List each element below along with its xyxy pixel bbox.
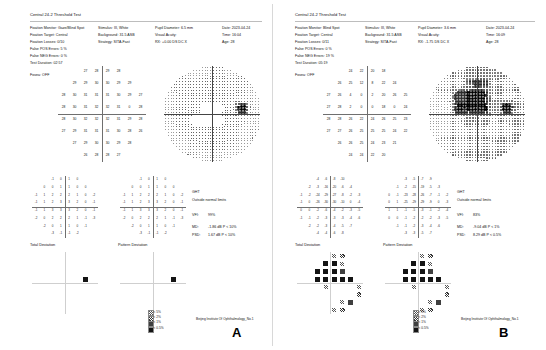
grayscale-cell <box>193 75 194 76</box>
grid-value: -5 <box>427 186 434 189</box>
grayscale-cell <box>227 78 228 79</box>
grayscale-cell <box>452 89 454 91</box>
grayscale-cell <box>188 81 189 82</box>
grayscale-cell <box>258 121 259 122</box>
grayscale-cell <box>236 81 237 82</box>
grayscale-cell <box>489 69 491 71</box>
grayscale-cell <box>500 115 502 117</box>
grayscale-cell <box>216 78 217 79</box>
grayscale-cell <box>236 146 237 147</box>
grayscale-cell <box>492 137 493 138</box>
grayscale-cell <box>483 126 484 127</box>
grayscale-cell <box>478 143 479 144</box>
grayscale-cell <box>483 118 484 119</box>
grayscale-cell <box>179 78 180 79</box>
grayscale-cell <box>486 69 488 71</box>
grayscale-cell <box>238 152 239 153</box>
grayscale-cell <box>503 146 505 148</box>
grayscale-cell <box>452 146 453 147</box>
grid-value: -2 <box>339 209 346 212</box>
grayscale-cell <box>450 112 451 113</box>
grid-value: 28 <box>115 70 122 73</box>
grayscale-cell <box>467 149 468 150</box>
grayscale-cell <box>514 101 515 102</box>
grayscale-cell <box>227 73 228 74</box>
grid-value: -4 <box>331 209 338 212</box>
grayscale-cell <box>190 154 191 155</box>
grayscale-cell <box>512 132 513 133</box>
grayscale-cell <box>461 140 462 141</box>
grayscale-cell <box>466 154 467 155</box>
grid-value: 24 <box>369 142 376 145</box>
grayscale-cell <box>216 146 217 147</box>
grayscale-cell <box>444 118 445 119</box>
grayscale-cell <box>236 135 237 136</box>
grayscale-cell <box>520 134 521 135</box>
grayscale-cell <box>171 90 172 91</box>
grayscale-cell <box>523 103 524 104</box>
grayscale-cell <box>458 140 459 141</box>
grid-value: 0 <box>358 106 365 109</box>
visual-acuity-b: Visual Acuity: <box>418 34 440 38</box>
grayscale-cell <box>461 135 462 136</box>
grid-value: -2 <box>306 194 313 197</box>
grayscale-cell <box>492 98 494 100</box>
grayscale-cell <box>196 157 197 158</box>
grid-value: 0 <box>41 186 48 189</box>
grayscale-cell <box>252 98 253 99</box>
grayscale-cell <box>486 123 487 124</box>
grayscale-cell <box>174 90 175 91</box>
grayscale-cell <box>450 135 451 136</box>
grayscale-cell <box>486 135 487 136</box>
grid-value: -3 <box>419 209 426 212</box>
grayscale-cell <box>489 137 490 138</box>
grayscale-cell <box>233 104 234 105</box>
grayscale-cell <box>514 103 516 105</box>
grid-value: 21 <box>391 142 398 145</box>
grayscale-cell <box>190 84 191 85</box>
grayscale-cell <box>241 140 242 141</box>
grayscale-cell <box>213 157 214 158</box>
grayscale-cell <box>438 106 439 107</box>
grayscale-cell <box>512 120 513 121</box>
grayscale-cell <box>199 75 200 76</box>
grayscale-cell <box>469 114 471 116</box>
grayscale-cell <box>509 95 510 96</box>
fixation-losses-a: Fixation Losses: 0/10 <box>30 41 64 45</box>
grid-value: 29 <box>126 82 133 85</box>
grayscale-cell <box>179 132 180 133</box>
grayscale-cell <box>238 90 239 91</box>
grayscale-cell <box>469 135 470 136</box>
grayscale-cell <box>458 75 459 76</box>
grayscale-cell <box>193 146 194 147</box>
grayscale-cell <box>506 126 507 127</box>
grayscale-cell <box>441 95 442 96</box>
grayscale-cell <box>188 143 189 144</box>
false-neg-errors-b: False NEG Errors: 19 % <box>295 55 334 59</box>
grid-value: 0 <box>170 194 177 197</box>
grayscale-cell <box>472 117 474 119</box>
grayscale-cell <box>461 154 462 155</box>
grayscale-cell <box>478 140 479 141</box>
grayscale-cell <box>196 152 197 153</box>
grid-value: 28 <box>336 106 343 109</box>
grayscale-cell <box>233 87 234 88</box>
grayscale-cell <box>481 146 482 147</box>
grayscale-cell <box>492 109 494 111</box>
grayscale-cell <box>478 126 479 127</box>
grayscale-cell <box>461 151 462 152</box>
grayscale-cell <box>472 67 474 69</box>
grayscale-cell <box>458 121 459 122</box>
grayscale-cell <box>441 84 442 85</box>
grayscale-cell <box>503 118 504 119</box>
grayscale-cell <box>523 115 524 116</box>
grayscale-cell <box>495 157 497 159</box>
grayscale-cell <box>463 114 465 116</box>
grayscale-cell <box>520 123 521 124</box>
grayscale-cell <box>517 120 518 121</box>
grid-value: -2 <box>347 194 354 197</box>
grayscale-cell <box>205 84 206 85</box>
grayscale-cell <box>190 75 191 76</box>
grid-value: -1 <box>178 209 185 212</box>
probability-symbol <box>315 277 320 282</box>
